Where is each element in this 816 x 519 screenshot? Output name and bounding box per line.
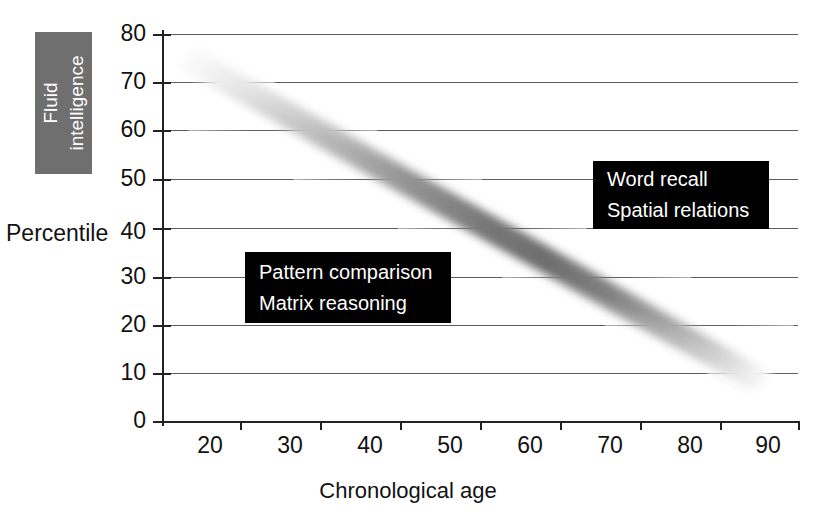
y-label-30: 30 (120, 265, 146, 288)
x-tick-80 (720, 421, 722, 430)
x-tick-50 (480, 421, 482, 430)
y-axis-caption: Percentile (6, 220, 108, 246)
x-tick-70 (640, 421, 642, 430)
y-label-60: 60 (120, 118, 146, 141)
y-label-10: 10 (120, 361, 146, 384)
fluid-intelligence-label-text: Fluid intelligence (38, 55, 90, 150)
callout-left-line2: Matrix reasoning (259, 288, 451, 319)
fluid-label-line2: intelligence (64, 55, 90, 150)
x-tick-90 (798, 421, 800, 430)
y-label-20: 20 (120, 313, 146, 336)
y-label-0: 0 (133, 409, 146, 432)
callout-right-line1: Word recall (607, 164, 769, 195)
x-label-60: 60 (500, 432, 560, 458)
x-tick-60 (560, 421, 562, 430)
x-label-30: 30 (260, 432, 320, 458)
y-tick-50 (153, 179, 171, 181)
x-label-90: 90 (738, 432, 798, 458)
chart-figure: 80 70 60 50 30 20 10 0 Percentile 40 20 … (0, 0, 816, 519)
x-tick-40 (400, 421, 402, 430)
fluid-intelligence-label-box: Fluid intelligence (35, 32, 92, 174)
x-tick-20 (240, 421, 242, 430)
y-tick-40 (153, 228, 171, 230)
fluid-label-line1: Fluid (38, 55, 64, 150)
x-label-70: 70 (580, 432, 640, 458)
callout-right-line2: Spatial relations (607, 195, 769, 226)
x-tick-30 (320, 421, 322, 430)
y-tick-10 (153, 373, 171, 375)
x-axis-title: Chronological age (0, 478, 816, 504)
y-tick-0 (153, 421, 171, 423)
y-tick-30 (153, 277, 171, 279)
x-label-80: 80 (660, 432, 720, 458)
y-label-80: 80 (120, 22, 146, 45)
y-tick-60 (153, 130, 171, 132)
callout-left-line1: Pattern comparison (259, 257, 451, 288)
y-tick-80 (153, 34, 171, 36)
x-label-20: 20 (180, 432, 240, 458)
x-label-40: 40 (340, 432, 400, 458)
y-label-50: 50 (120, 167, 146, 190)
x-label-50: 50 (420, 432, 480, 458)
y-tick-20 (153, 325, 171, 327)
y-label-40: 40 (120, 220, 146, 243)
y-tick-70 (153, 82, 171, 84)
y-label-70: 70 (120, 70, 146, 93)
word-recall-callout: Word recall Spatial relations (593, 161, 769, 229)
pattern-comparison-callout: Pattern comparison Matrix reasoning (245, 252, 451, 323)
